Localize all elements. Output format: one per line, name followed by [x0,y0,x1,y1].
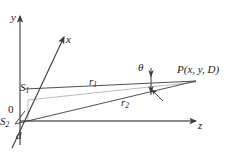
theta-pointer-line [152,90,163,101]
r1-index: 1 [93,80,97,89]
figure-geometry [0,0,229,156]
origin-label: 0 [8,104,14,115]
r2-label: r2 [121,97,129,109]
field-point-label: P(x, y, D) [177,64,219,75]
r1-label: r1 [89,76,97,88]
source-1-index: 1 [26,86,30,95]
figure-canvas: y x z 0 S1 S2 P(x, y, D) r1 r2 θ d [0,0,229,156]
z-axis-label: z [198,120,202,131]
r2-ray [15,81,196,124]
separation-d-label: d [16,130,22,141]
source-1-label: S1 [20,82,29,94]
r2-index: 2 [125,101,129,110]
theta-label: θ [138,62,143,73]
source-2-index: 2 [6,120,10,129]
y-axis-label: y [11,12,16,23]
x-axis-label: x [66,34,71,45]
source-2-label: S2 [0,116,9,128]
